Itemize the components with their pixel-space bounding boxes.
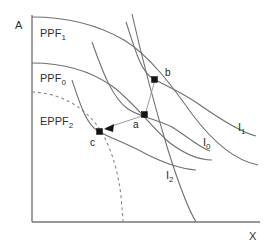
x-axis-label: X (249, 231, 256, 242)
curve-label-ppf0-text: PPF (40, 72, 61, 84)
curve-label-ppf0: PPF0 (40, 73, 66, 87)
point-marker-c (97, 129, 103, 135)
curve-label-eppf2: EPPF2 (40, 116, 73, 130)
curve-label-eppf2-sub: 2 (69, 121, 73, 130)
point-marker-b (152, 77, 158, 83)
arrow-head-icon (104, 124, 114, 132)
point-label-c: c (90, 138, 95, 148)
curve-label-ppf1: PPF1 (40, 28, 66, 42)
curve-label-i0-sub: 0 (206, 142, 210, 151)
curve-label-i2: I2 (166, 170, 174, 184)
curve-label-i1-sub: 1 (241, 127, 245, 136)
curve-label-i1: I1 (238, 122, 246, 136)
ppf-indifference-diagram: A X PPF1 PPF0 EPPF2 I1 I0 I2 a b c (0, 0, 276, 249)
curve-label-ppf1-text: PPF (40, 27, 61, 39)
point-marker-a (142, 112, 148, 118)
point-label-a: a (133, 120, 139, 130)
curve-price-ray (132, 14, 196, 222)
curve-label-i0: I0 (203, 137, 211, 151)
curve-label-ppf1-sub: 1 (61, 33, 65, 42)
point-label-b: b (165, 68, 171, 78)
curve-label-eppf2-text: EPPF (40, 115, 69, 127)
curve-i0 (92, 42, 210, 151)
y-axis-label: A (15, 20, 22, 31)
curve-label-i2-sub: 2 (169, 175, 173, 184)
curve-label-ppf0-sub: 0 (61, 78, 65, 87)
curve-eppf2 (32, 92, 123, 222)
